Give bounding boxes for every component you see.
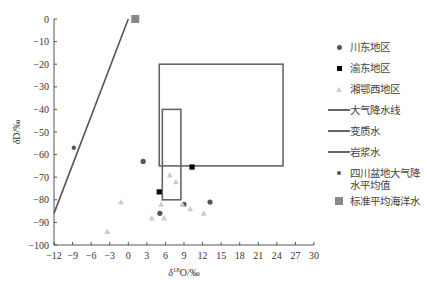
y-tick-label: −10 [33,36,49,47]
yudong-point [189,164,194,169]
triangle-marker-icon [336,87,342,92]
y-tick-label: −100 [28,240,49,251]
x-axis-title: δ18O/‰ [168,266,200,278]
x-tick-label: −3 [104,250,115,261]
y-tick-label: −30 [33,81,49,92]
y-tick-label: −20 [33,59,49,70]
x-tick-label: 24 [272,250,282,261]
plot-area [54,15,283,234]
xiangexi-point [173,179,179,185]
smow-point [131,15,139,23]
magmatic-water-box [162,109,181,199]
x-tick-label: 9 [182,250,187,261]
x-tick-label: 6 [163,250,168,261]
chuandong-point [157,211,162,216]
line-marker-icon [328,151,350,153]
y-tick-label: −50 [33,127,49,138]
y-tick-label: −80 [33,194,49,205]
legend-item-chuandong: 川东地区 [328,40,427,61]
xiangexi-point [158,201,164,207]
chuandong-point [207,199,212,204]
chuandong-point [141,159,146,164]
x-tick-label: 30 [309,250,319,261]
x-tick-label: 12 [198,250,208,261]
x-tick-label: −9 [67,250,78,261]
yudong-point [157,189,162,194]
xiangexi-point [167,172,173,178]
x-tick-label: 18 [235,250,245,261]
x-tick-label: −6 [86,250,97,261]
xiangexi-point [149,215,155,221]
legend-item-meteoric-line: 大气降水线 [328,103,427,124]
legend-item-xiangexi: 湘鄂西地区 [328,82,427,103]
legend-item-magmatic-water: 岩浆水 [328,145,427,166]
legend-item-metamorphic-water: 变质水 [328,124,427,145]
legend-item-yudong: 渝东地区 [328,61,427,82]
legend-item-smow: 标准平均海洋水 [328,194,427,215]
y-tick-label: 0 [44,14,49,25]
x-tick-label: 15 [216,250,226,261]
line-marker-icon [328,109,350,111]
xiangexi-point [201,210,207,216]
small-circle-marker-icon [337,171,341,175]
circle-marker-icon [337,45,342,50]
xiangexi-point [161,215,167,221]
x-tick-label: 21 [253,250,263,261]
axes: 0−10−20−30−40−50−60−70−80−90−100−12−9−6−… [11,14,319,279]
legend-item-sichuan-mean: 四川盆地大气降水平均值 [328,166,427,194]
x-tick-label: 27 [290,250,300,261]
x-tick-label: 0 [126,250,131,261]
xiangexi-point [118,199,124,205]
xiangexi-point [187,206,193,212]
x-tick-label: 3 [144,250,149,261]
metamorphic-water-box [159,64,283,166]
square-marker-icon [337,66,342,71]
y-tick-label: −40 [33,104,49,115]
xiangexi-point [104,228,110,234]
y-tick-label: −60 [33,149,49,160]
x-tick-label: −12 [46,250,62,261]
line-marker-icon [328,130,350,132]
legend: 川东地区 渝东地区 湘鄂西地区 大气降水线 变质水 岩浆水 四川盆地大气降水平均… [328,40,427,215]
meteoric-water-line [54,19,128,213]
big-square-marker-icon [335,197,343,205]
y-tick-label: −70 [33,172,49,183]
y-axis-title: δD/‰ [11,120,22,145]
sichuan-mean-point [72,146,76,150]
y-tick-label: −90 [33,217,49,228]
